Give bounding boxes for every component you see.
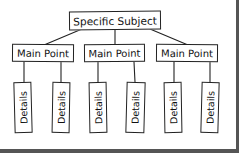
frame-border-right	[236, 0, 239, 153]
detail-node-1-2: Details	[52, 82, 71, 133]
detail-label: Details	[55, 91, 67, 124]
detail-node-1-1: Details	[13, 82, 32, 133]
detail-node-3-2: Details	[200, 82, 219, 133]
root-node-label: Specific Subject	[73, 14, 157, 27]
detail-label: Details	[130, 91, 142, 124]
detail-label: Details	[92, 91, 104, 124]
frame-border-bottom	[0, 149, 239, 153]
detail-label: Details	[204, 91, 216, 124]
main-point-node-3: Main Point	[156, 44, 218, 62]
diagram-canvas: Specific Subject Main Point Main Point M…	[0, 0, 239, 153]
main-point-label: Main Point	[161, 47, 213, 58]
main-point-label: Main Point	[88, 47, 140, 58]
detail-label: Details	[17, 91, 29, 124]
main-point-node-2: Main Point	[84, 44, 145, 63]
main-point-label: Main Point	[17, 47, 69, 58]
detail-node-2-1: Details	[89, 82, 108, 133]
main-point-node-1: Main Point	[12, 44, 74, 63]
root-node-specific-subject: Specific Subject	[69, 11, 161, 31]
detail-label: Details	[167, 91, 179, 124]
detail-node-3-1: Details	[164, 82, 183, 133]
detail-node-2-2: Details	[125, 82, 145, 133]
